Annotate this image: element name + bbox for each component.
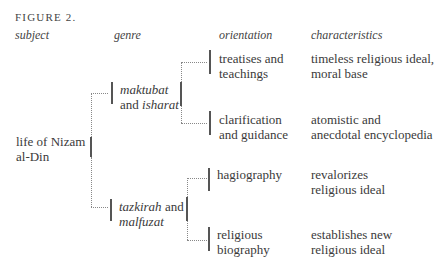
connector-to-orientation-2 [181, 123, 207, 124]
characteristics-4-line-2: religious ideal [311, 242, 392, 257]
characteristics-1-line-1: timeless religious ideal, [311, 51, 434, 66]
orientation-1-line-1: treatises and [219, 51, 284, 66]
connector-genre-1-down [181, 106, 182, 123]
column-header-genre: genre [114, 28, 141, 43]
characteristics-4-line-1: establishes new [311, 227, 392, 242]
genre-1-line-1: maktubat [120, 82, 168, 97]
genre-2-line-1-italic: tazkirah [119, 199, 162, 214]
subject-line-1: life of Nizam [16, 134, 85, 149]
orientation-2-bracket [209, 111, 211, 135]
orientation-4-bracket [208, 227, 210, 251]
characteristics-2-line-1: atomistic and [311, 112, 433, 127]
connector-genre-2-down [187, 221, 188, 240]
subject-bracket [90, 137, 92, 157]
connector-subject-down [91, 157, 92, 207]
subject-node: life of Nizam al-Din [16, 134, 85, 164]
column-header-orientation: orientation [219, 28, 272, 43]
characteristics-3: revalorizes religious ideal [311, 167, 385, 197]
column-header-subject: subject [15, 28, 49, 43]
characteristics-3-line-2: religious ideal [311, 182, 385, 197]
characteristics-3-line-1: revalorizes [311, 167, 385, 182]
connector-to-orientation-3 [187, 178, 207, 179]
characteristics-1: timeless religious ideal, moral base [311, 51, 434, 81]
orientation-node-1: treatises and teachings [219, 51, 284, 81]
connector-genre-2-up [187, 178, 188, 197]
column-header-characteristics: characteristics [311, 28, 382, 43]
connector-genre-1-up [181, 62, 182, 82]
orientation-1-bracket [209, 50, 211, 74]
orientation-1-line-2: teachings [219, 66, 284, 81]
genre-2-right-bracket [186, 197, 188, 221]
genre-1-bracket [111, 82, 113, 104]
connector-to-genre-1 [91, 93, 108, 94]
genre-1-line-2-plain: and [120, 97, 142, 112]
genre-node-tazkirah: tazkirah and malfuzat [119, 199, 184, 229]
characteristics-2: atomistic and anecdotal encyclopedia [311, 112, 433, 142]
characteristics-2-line-2: anecdotal encyclopedia [311, 127, 433, 142]
orientation-2-line-2: and guidance [219, 127, 288, 142]
orientation-3-line-1: hagiography [217, 167, 282, 182]
subject-line-2: al-Din [16, 149, 85, 164]
genre-2-line-1-plain: and [162, 199, 184, 214]
orientation-4-line-2: biography [217, 242, 270, 257]
genre-2-bracket [110, 199, 112, 221]
genre-node-maktubat: maktubat and isharat [120, 82, 179, 112]
genre-2-line-2: malfuzat [119, 214, 164, 229]
characteristics-4: establishes new religious ideal [311, 227, 392, 257]
connector-to-genre-2 [91, 207, 108, 208]
orientation-node-3: hagiography [217, 167, 282, 182]
genre-1-line-2-italic: isharat [142, 97, 179, 112]
genre-1-right-bracket [180, 82, 182, 106]
orientation-2-line-1: clarification [219, 112, 288, 127]
orientation-node-4: religious biography [217, 227, 270, 257]
characteristics-1-line-2: moral base [311, 66, 434, 81]
connector-to-orientation-4 [187, 240, 207, 241]
connector-to-orientation-1 [181, 62, 207, 63]
figure-title: FIGURE 2. [15, 11, 77, 23]
orientation-3-bracket [208, 168, 210, 191]
orientation-node-2: clarification and guidance [219, 112, 288, 142]
connector-subject-up [91, 93, 92, 137]
orientation-4-line-1: religious [217, 227, 270, 242]
